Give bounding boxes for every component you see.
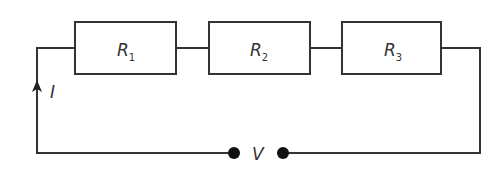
- current-label: I: [50, 82, 55, 102]
- circuit-diagram: I R1 R2 R3 V: [0, 0, 503, 169]
- resistor-subscript: 1: [129, 52, 135, 63]
- resistor-symbol: R: [117, 40, 129, 60]
- resistor-subscript: 3: [396, 52, 402, 63]
- terminal-left: [228, 147, 240, 159]
- resistor-r3: R3: [342, 22, 441, 74]
- voltage-label: V: [252, 144, 265, 164]
- resistor-symbol: R: [384, 40, 396, 60]
- resistor-symbol: R: [250, 40, 262, 60]
- resistor-subscript: 2: [262, 52, 268, 63]
- resistor-r1: R1: [75, 22, 176, 74]
- terminal-right: [277, 147, 289, 159]
- resistor-r2: R2: [209, 22, 310, 74]
